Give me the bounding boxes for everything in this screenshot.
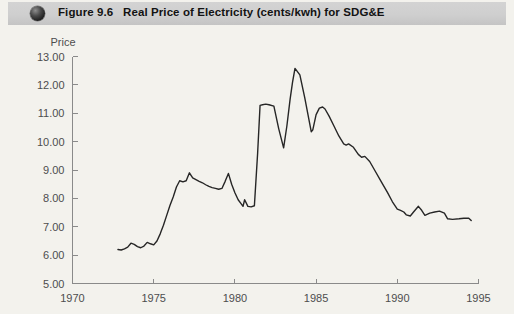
filled-circle-icon — [30, 6, 45, 21]
x-tick-label: 1980 — [223, 292, 247, 304]
chart-plot-area: 5.006.007.008.009.0010.0011.0012.0013.00… — [0, 25, 514, 314]
figure-number-label: Figure 9.6 — [58, 6, 113, 18]
y-tick-label: 7.00 — [43, 221, 64, 233]
y-tick-label: 6.00 — [43, 249, 64, 261]
y-axis-tick-labels: 5.006.007.008.009.0010.0011.0012.0013.00 — [37, 51, 65, 290]
y-axis-title-text: Price — [51, 36, 76, 48]
figure-header-bar: Figure 9.6 Real Price of Electricity (ce… — [8, 2, 506, 25]
y-tick-label: 9.00 — [43, 164, 64, 176]
y-tick-label: 13.00 — [37, 51, 65, 63]
figure-title: Real Price of Electricity (cents/kwh) fo… — [123, 6, 385, 18]
y-tick-label: 12.00 — [37, 79, 65, 91]
chart-svg: 5.006.007.008.009.0010.0011.0012.0013.00… — [0, 25, 514, 314]
chart-axes — [73, 57, 479, 284]
x-axis-tick-labels: 197019751980198519901995 — [60, 292, 490, 304]
data-series-line — [118, 68, 471, 250]
y-tick-label: 10.00 — [37, 136, 65, 148]
y-tick-label: 11.00 — [38, 107, 65, 119]
y-axis-title: Price — [51, 36, 76, 48]
x-tick-label: 1990 — [385, 292, 409, 304]
y-tick-label: 5.00 — [43, 278, 64, 290]
x-tick-label: 1985 — [304, 292, 328, 304]
x-tick-label: 1995 — [466, 292, 490, 304]
x-tick-label: 1975 — [141, 292, 165, 304]
x-axis-ticks — [73, 279, 479, 284]
x-tick-label: 1970 — [60, 292, 84, 304]
figure-container: Figure 9.6 Real Price of Electricity (ce… — [0, 0, 514, 314]
y-tick-label: 8.00 — [43, 192, 64, 204]
price-line — [118, 68, 471, 250]
y-axis-ticks — [73, 57, 78, 284]
